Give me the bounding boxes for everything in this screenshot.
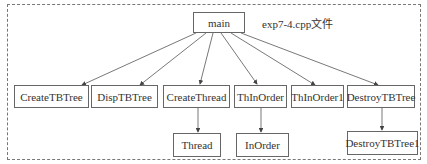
edge-main-thinorder1 — [231, 33, 315, 85]
node-destroytbtree1: DestroyTBTree1 — [347, 131, 418, 155]
node-thinorder: ThInOrder — [234, 85, 287, 108]
node-disptbtree: DispTBTree — [91, 85, 158, 108]
node-thread: Thread — [173, 133, 221, 157]
edge-main-createthread — [200, 33, 213, 84]
file-label: exp7-4.cpp文件 — [262, 15, 333, 31]
edge-main-disptbtree — [140, 33, 206, 85]
edge-main-thinorder — [221, 33, 257, 84]
node-createthread: CreateThread — [163, 85, 230, 108]
node-inorder: InOrder — [236, 133, 289, 157]
node-createtbtree: CreateTBTree — [14, 85, 89, 108]
node-main: main — [193, 12, 245, 33]
node-thinorder1: ThInOrder1 — [291, 85, 344, 108]
node-destroytbtree: DestroyTBTree — [347, 85, 415, 108]
edge-main-destroytbtree — [241, 33, 378, 85]
edge-main-createtbtree — [82, 33, 196, 85]
